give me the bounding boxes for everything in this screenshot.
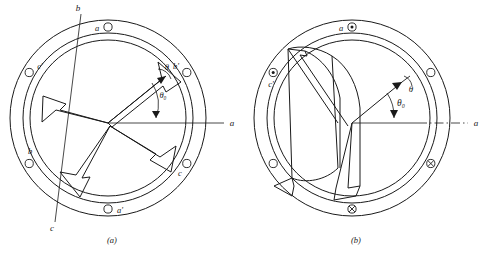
axis-label-b-a: b bbox=[76, 3, 81, 13]
slot-a-aprime bbox=[104, 205, 112, 213]
stator-outer-circle-b bbox=[254, 20, 450, 216]
slot-label-b-cprime: c' bbox=[268, 79, 274, 89]
axis-label-c-a: c bbox=[50, 223, 54, 233]
slot-a-c bbox=[183, 159, 191, 167]
slot-label-a-aprime: a' bbox=[117, 205, 123, 215]
slot-a-b bbox=[25, 159, 33, 167]
caption-a: (a) bbox=[107, 235, 117, 245]
theta-zero-label-b: θ₀ bbox=[397, 98, 405, 108]
axis-label-a-b: a bbox=[474, 118, 479, 128]
slot-label-a-b: b bbox=[28, 146, 32, 156]
machine-cross-section-figure: a b' c a' b c' b c a θ θ₀ (a) bbox=[0, 0, 492, 260]
slot-b-a bbox=[348, 23, 356, 31]
slot-label-a-cprime: c' bbox=[37, 61, 43, 71]
slot-b-s2 bbox=[427, 68, 435, 76]
mmf-wave-left-b bbox=[288, 49, 348, 126]
mmf-wave-lower-tail-a bbox=[60, 126, 110, 197]
mmf-wave-lower-a bbox=[110, 126, 176, 172]
slot-b-cprime bbox=[269, 68, 277, 76]
theta-zero-label-a: θ₀ bbox=[159, 90, 166, 100]
stator-inner-circle-a bbox=[23, 33, 193, 203]
slot-a-a bbox=[104, 23, 112, 31]
mmf-wave-upper-tail-a bbox=[42, 96, 108, 123]
diagram-a: a b' c a' b c' b c a θ θ₀ (a) bbox=[10, 3, 235, 245]
rotor-bore-circle-a bbox=[30, 40, 186, 196]
diagram-b: a c' a θ θ₀ (b) bbox=[254, 20, 479, 245]
slot-a-cprime bbox=[25, 68, 33, 76]
theta-zero-arrowhead-b bbox=[390, 110, 398, 118]
slot-a-bprime bbox=[183, 68, 191, 76]
phase-axis-bc-a bbox=[55, 14, 81, 222]
theta-zero-arrowhead-a bbox=[152, 111, 160, 118]
slot-b-s3 bbox=[427, 159, 435, 167]
mmf-wave-band-b bbox=[288, 47, 338, 181]
theta-label-a: θ bbox=[165, 63, 169, 72]
stator-inner-circle-b bbox=[267, 33, 437, 203]
slot-label-a-a: a bbox=[95, 23, 99, 33]
stator-outer-circle-a bbox=[10, 20, 206, 216]
theta-label-b: θ bbox=[409, 84, 414, 94]
theta-vector-a bbox=[108, 76, 166, 123]
slot-b-s5 bbox=[269, 159, 277, 167]
mmf-wave-upper-a bbox=[108, 62, 181, 127]
axis-label-a-a: a bbox=[230, 118, 235, 128]
slot-label-a-c: c bbox=[178, 168, 182, 178]
slot-b-s4 bbox=[348, 205, 356, 213]
slot-label-a-bprime: b' bbox=[173, 61, 179, 71]
caption-b: (b) bbox=[351, 235, 361, 245]
slot-label-b-a: a bbox=[339, 23, 343, 33]
